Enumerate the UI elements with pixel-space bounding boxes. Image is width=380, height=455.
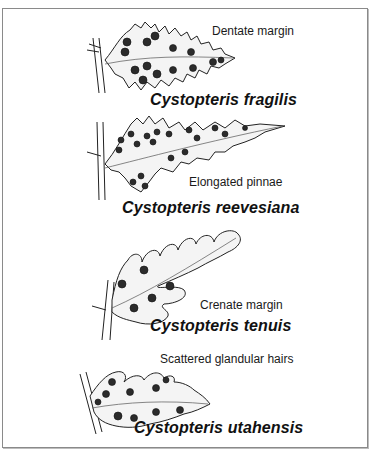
feature-label: Dentate margin	[212, 24, 294, 38]
feature-label: Elongated pinnae	[189, 175, 282, 189]
feature-label: Crenate margin	[200, 298, 283, 312]
species-name: Cystopteris tenuis	[150, 317, 291, 335]
species-name: Cystopteris reevesiana	[122, 199, 299, 217]
feature-label: Scattered glandular hairs	[160, 352, 293, 366]
species-name: Cystopteris fragilis	[150, 91, 297, 109]
species-name: Cystopteris utahensis	[134, 419, 303, 437]
